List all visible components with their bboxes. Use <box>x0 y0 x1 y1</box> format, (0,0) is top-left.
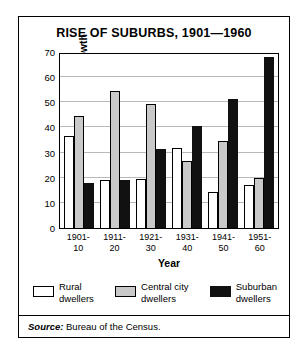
bar-group <box>61 54 97 228</box>
x-tick-label: 1931-40 <box>169 232 205 254</box>
bar-suburban[interactable] <box>192 126 202 228</box>
x-axis-category-labels: 1901-101911-201921-301931-401941-501951-… <box>59 232 279 254</box>
bar-rural[interactable] <box>244 185 254 228</box>
x-tick-label: 1921-30 <box>133 232 169 254</box>
bar-central[interactable] <box>254 178 264 228</box>
x-tick-label: 1911-20 <box>96 232 132 254</box>
y-tick-label: 60 <box>33 73 55 83</box>
y-tick-label: 20 <box>33 174 55 184</box>
bar-group <box>133 54 169 228</box>
bar-central[interactable] <box>74 116 84 228</box>
bar-suburban[interactable] <box>120 180 130 228</box>
bar-rural[interactable] <box>136 179 146 228</box>
bar-rural[interactable] <box>208 192 218 228</box>
bar-rural[interactable] <box>64 136 74 228</box>
bar-suburban[interactable] <box>264 57 274 228</box>
y-tick-label: 0 <box>33 224 55 234</box>
bar-central[interactable] <box>182 161 192 228</box>
bar-group <box>205 54 241 228</box>
bar-rural[interactable] <box>100 180 110 228</box>
legend-swatch-suburban <box>210 286 231 297</box>
source-note: Source: Bureau of the Census. <box>28 321 161 332</box>
bar-suburban[interactable] <box>228 99 238 228</box>
chart-title: RISE OF SUBURBS, 1901—1960 <box>19 26 289 40</box>
legend-swatch-central <box>115 286 136 297</box>
x-tick-label: 1901-10 <box>60 232 96 254</box>
y-tick-label: 30 <box>33 149 55 159</box>
legend-item-suburban[interactable]: Suburban dwellers <box>210 281 277 304</box>
bar-suburban[interactable] <box>84 183 94 228</box>
y-tick-label: 70 <box>33 48 55 58</box>
y-tick-label: 40 <box>33 124 55 134</box>
plot-frame <box>59 53 279 229</box>
bar-central[interactable] <box>146 104 156 228</box>
bar-group <box>241 54 277 228</box>
bar-rural[interactable] <box>172 148 182 228</box>
bar-central[interactable] <box>218 141 228 228</box>
legend-label-rural: Rural dwellers <box>59 281 94 304</box>
bar-suburban[interactable] <box>156 149 166 228</box>
legend-label-suburban: Suburban dwellers <box>236 281 277 304</box>
source-label: Source: <box>28 321 63 332</box>
y-tick-label: 50 <box>33 99 55 109</box>
chart-figure: RISE OF SUBURBS, 1901—1960 Percent of po… <box>18 16 290 338</box>
x-axis-title: Year <box>59 257 279 269</box>
legend-item-rural[interactable]: Rural dwellers <box>33 281 94 304</box>
bar-group <box>169 54 205 228</box>
bar-group <box>97 54 133 228</box>
x-tick-label: 1951-60 <box>242 232 278 254</box>
legend-label-central: Central city dwellers <box>141 281 189 304</box>
bar-groups <box>60 54 278 228</box>
bar-central[interactable] <box>110 91 120 228</box>
chart-legend: Rural dwellersCentral city dwellersSubur… <box>33 281 277 304</box>
source-value: Bureau of the Census. <box>63 321 160 332</box>
legend-item-central[interactable]: Central city dwellers <box>115 281 189 304</box>
source-divider <box>19 315 289 316</box>
plot-area: Percent of population growth 01020304050… <box>59 53 279 229</box>
legend-swatch-rural <box>33 286 54 297</box>
x-tick-label: 1941-50 <box>205 232 241 254</box>
y-tick-label: 10 <box>33 199 55 209</box>
